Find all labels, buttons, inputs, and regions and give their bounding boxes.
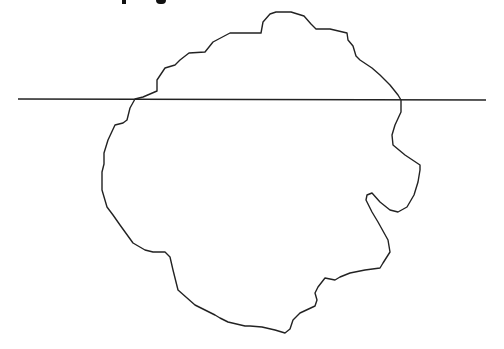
horizontal-line (18, 99, 486, 100)
irregular-shape-outline (102, 12, 420, 333)
diagram-canvas (0, 0, 504, 349)
